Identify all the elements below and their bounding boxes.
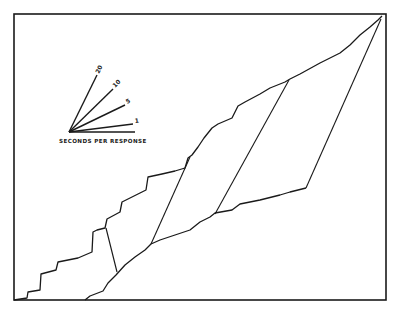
key-rate-label: 1 [134, 117, 139, 124]
reset-connector-line [306, 19, 381, 188]
reset-connector-line [151, 157, 190, 244]
key-rate-label: 10 [111, 78, 122, 89]
cumulative-record-chart: 201051SECONDS PER RESPONSE [0, 0, 396, 313]
key-rate-line [69, 75, 97, 132]
chart-frame [14, 14, 386, 300]
key-rate-label: 20 [94, 64, 104, 75]
upper-cumulative-record [14, 16, 382, 300]
reset-connectors [106, 19, 381, 272]
response-curves [14, 16, 382, 300]
key-caption: SECONDS PER RESPONSE [59, 138, 147, 144]
rate-key: 201051SECONDS PER RESPONSE [59, 64, 147, 144]
reset-connector-line [106, 228, 117, 272]
reset-connector-line [215, 80, 289, 214]
lower-cumulative-record [85, 188, 306, 300]
key-rate-label: 5 [124, 97, 131, 105]
key-rate-line [69, 89, 113, 132]
